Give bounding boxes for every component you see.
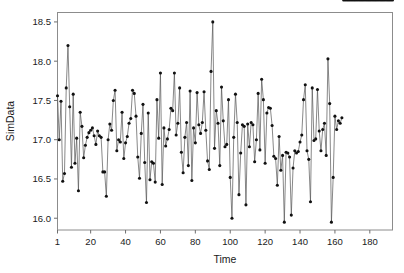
data-point (292, 166, 295, 169)
data-point (335, 128, 338, 131)
data-point (196, 91, 199, 94)
data-point (134, 115, 137, 118)
data-point (75, 137, 78, 140)
data-point (182, 171, 185, 174)
data-point (220, 86, 223, 89)
data-point (265, 111, 268, 114)
data-point (157, 137, 160, 140)
data-point (121, 111, 124, 114)
data-point (100, 136, 103, 139)
data-point (91, 126, 94, 129)
data-point (323, 122, 326, 125)
y-tick-label: 18.5 (33, 16, 52, 27)
data-point (115, 149, 118, 152)
data-point (211, 20, 214, 23)
data-point (298, 141, 301, 144)
data-point (141, 103, 144, 106)
data-point (319, 149, 322, 152)
x-tick-label: 80 (190, 236, 201, 247)
data-point (77, 189, 80, 192)
data-point (218, 164, 221, 167)
data-point (204, 129, 207, 132)
x-axis-title: Time (214, 253, 237, 265)
data-point (155, 98, 158, 101)
data-point (145, 201, 148, 204)
data-point (286, 152, 289, 155)
data-point (107, 138, 110, 141)
data-point (56, 94, 59, 97)
data-point (300, 133, 303, 136)
data-point (262, 98, 265, 101)
data-point (243, 125, 246, 128)
data-point (136, 155, 139, 158)
data-point (260, 78, 263, 81)
data-point (232, 136, 235, 139)
data-point (187, 164, 190, 167)
data-point (288, 155, 291, 158)
data-point (316, 88, 319, 91)
data-point (290, 214, 293, 217)
data-point (274, 157, 277, 160)
data-point (122, 157, 125, 160)
data-point (230, 217, 233, 220)
data-point (159, 71, 162, 74)
data-point (82, 156, 85, 159)
data-point (129, 117, 132, 120)
data-point (326, 57, 329, 60)
data-point (126, 135, 129, 138)
x-tick-label: 140 (292, 236, 308, 247)
y-tick-label: 16.0 (33, 213, 52, 224)
figure-background (0, 0, 404, 273)
data-point (225, 143, 228, 146)
data-point (164, 144, 167, 147)
data-point (333, 115, 336, 118)
data-point (328, 102, 331, 105)
y-axis-title: SimData (4, 101, 16, 141)
data-point (246, 122, 249, 125)
data-point (171, 109, 174, 112)
y-tick-label: 18.0 (33, 56, 52, 67)
data-point (321, 128, 324, 131)
data-point (190, 179, 193, 182)
data-point (180, 151, 183, 154)
simdata-time-series-plot: 16.016.517.017.518.018.5 120406080100120… (0, 0, 404, 273)
data-point (72, 93, 75, 96)
data-point (103, 170, 106, 173)
data-point (166, 137, 169, 140)
data-point (178, 86, 181, 89)
data-point (80, 125, 83, 128)
y-tick-label: 17.5 (33, 95, 52, 106)
chart-figure: 16.016.517.017.518.018.5 120406080100120… (0, 0, 404, 273)
data-point (229, 176, 232, 179)
data-point (173, 71, 176, 74)
data-point (209, 70, 212, 73)
data-point (162, 126, 165, 129)
data-point (236, 121, 239, 124)
data-point (255, 138, 258, 141)
data-point (199, 132, 202, 135)
data-point (63, 172, 66, 175)
data-point (309, 200, 312, 203)
data-point (131, 89, 134, 92)
data-point (119, 141, 122, 144)
data-point (59, 100, 62, 103)
data-point (112, 99, 115, 102)
data-point (330, 221, 333, 224)
data-point (124, 141, 127, 144)
data-point (58, 138, 61, 141)
data-point (340, 116, 343, 119)
data-point (140, 132, 143, 135)
data-point (86, 136, 89, 139)
data-point (227, 98, 230, 101)
data-point (305, 149, 308, 152)
data-point (105, 195, 108, 198)
data-point (258, 148, 261, 151)
data-point (108, 122, 111, 125)
data-point (283, 221, 286, 224)
x-tick-label: 180 (362, 236, 378, 247)
data-point (192, 126, 195, 129)
data-point (147, 111, 150, 114)
data-point (216, 122, 219, 125)
data-point (234, 93, 237, 96)
y-tick-label: 16.5 (33, 173, 52, 184)
